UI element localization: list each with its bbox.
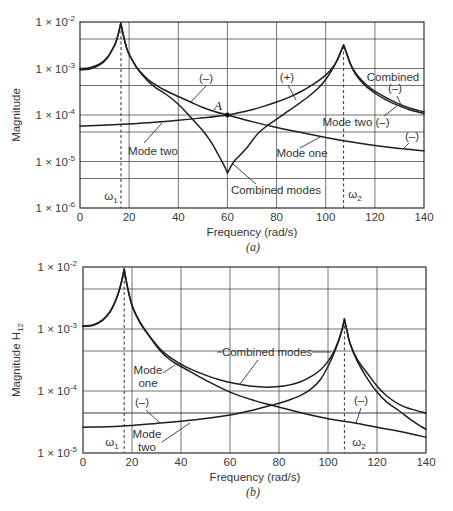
y-tick-exponent: -3 xyxy=(70,321,78,330)
leader-line xyxy=(384,106,397,116)
point-a-label: A xyxy=(213,98,222,113)
y-tick-mantissa: 1 × 10 xyxy=(36,109,68,121)
x-tick-label: 120 xyxy=(367,456,386,468)
y-tick-label: 1 × 10-5 xyxy=(38,445,78,459)
x-tick-label: 40 xyxy=(175,456,188,468)
combined-modes-label: Combined modes xyxy=(222,346,312,358)
y-tick-mantissa: 1 × 10 xyxy=(38,261,70,273)
y-tick-mantissa: 1 × 10 xyxy=(36,16,68,28)
omega-symbol: ω xyxy=(348,188,357,200)
omega1-label: ω1 xyxy=(105,436,119,451)
leader-line xyxy=(144,123,162,143)
x-tick-label: 140 xyxy=(416,456,435,468)
omega1-label: ω1 xyxy=(104,190,118,205)
y-tick-mantissa: 1 × 10 xyxy=(36,202,68,214)
leader-line xyxy=(163,365,175,373)
y-tick-exponent: -2 xyxy=(70,259,78,268)
omega-subscript: 2 xyxy=(361,442,366,451)
leader-line xyxy=(240,360,258,384)
y-axis-title: Magnitude xyxy=(10,88,22,142)
y-tick-label: 1 × 10-2 xyxy=(38,259,78,273)
omega-subscript: 1 xyxy=(113,196,118,205)
x-tick-label: 0 xyxy=(77,211,83,223)
y-tick-label: 1 × 10-4 xyxy=(38,383,78,397)
y-tick-label: 1 × 10-3 xyxy=(38,321,78,335)
x-tick-label: 80 xyxy=(270,211,283,223)
mode-one-sign-label: (–) xyxy=(199,72,213,84)
y-tick-label: 1 × 10-2 xyxy=(36,14,76,28)
x-axis-title: Frequency (rad/s) xyxy=(207,226,298,238)
x-tick-label: 140 xyxy=(414,211,433,223)
y-tick-label: 1 × 10-3 xyxy=(36,61,76,75)
mode-two-label-line1: Mode xyxy=(133,428,162,440)
y-tick-exponent: -5 xyxy=(68,154,76,163)
mode-two-label: Mode two xyxy=(128,145,178,157)
y-tick-mantissa: 1 × 10 xyxy=(38,323,70,335)
y-tick-exponent: -4 xyxy=(70,383,78,392)
point-a-marker xyxy=(225,113,230,118)
y-tick-mantissa: 1 × 10 xyxy=(36,156,68,168)
leader-line xyxy=(146,410,160,423)
leader-line xyxy=(356,408,361,423)
y-axis-title-subscript: 12 xyxy=(16,322,25,331)
curve-combined-modes xyxy=(83,269,426,413)
x-tick-label: 80 xyxy=(273,456,286,468)
x-tick-label: 100 xyxy=(318,456,337,468)
omega2-label: ω2 xyxy=(348,188,362,203)
omega-subscript: 1 xyxy=(114,442,119,451)
leader-line xyxy=(403,143,409,149)
panel-caption: (b) xyxy=(246,485,260,499)
omega-symbol: ω xyxy=(104,190,113,202)
y-tick-label: 1 × 10-5 xyxy=(36,154,76,168)
y-axis-title: Magnitude H12 xyxy=(10,322,25,397)
y-tick-label: 1 × 10-4 xyxy=(36,107,76,121)
mode-one-sign-label: (–) xyxy=(354,394,368,406)
mode-one-label-line2: one xyxy=(138,377,157,389)
panel-caption: (a) xyxy=(246,240,260,254)
leader-line xyxy=(233,164,256,184)
y-tick-exponent: -5 xyxy=(70,445,78,454)
combined-modes-label: Combined modes xyxy=(231,184,321,196)
omega-symbol: ω xyxy=(105,436,114,448)
omega-symbol: ω xyxy=(352,436,361,448)
y-tick-mantissa: 1 × 10 xyxy=(38,447,70,459)
y-tick-exponent: -4 xyxy=(68,107,76,116)
mode-one-right-sign-label: (–) xyxy=(405,130,419,142)
panel-a: 1 × 10-2 1 × 10-3 1 × 10-4 1 × 10-5 1 × … xyxy=(10,14,434,254)
omega2-label: ω2 xyxy=(352,436,366,451)
panel-b: 1 × 10-2 1 × 10-3 1 × 10-4 1 × 10-5 0 20… xyxy=(10,259,436,499)
figure: 1 × 10-2 1 × 10-3 1 × 10-4 1 × 10-5 1 × … xyxy=(0,0,453,511)
x-tick-label: 60 xyxy=(221,211,234,223)
leader-line xyxy=(162,423,190,442)
mode-two-label-line2: two xyxy=(138,441,156,453)
mode-two-right-label: Mode two (–) xyxy=(322,116,389,128)
x-tick-label: 20 xyxy=(126,456,139,468)
mode-one-label: Mode one xyxy=(276,147,327,159)
y-tick-mantissa: 1 × 10 xyxy=(38,385,70,397)
x-tick-label: 20 xyxy=(123,211,136,223)
y-axis-title-main: Magnitude H xyxy=(10,332,22,397)
leader-line xyxy=(190,86,206,103)
y-tick-label: 1 × 10-6 xyxy=(36,200,76,214)
x-tick-label: 60 xyxy=(224,456,237,468)
omega-subscript: 2 xyxy=(357,194,362,203)
mode-two-sign-label: (–) xyxy=(135,396,149,408)
x-tick-label: 120 xyxy=(365,211,384,223)
x-tick-label: 40 xyxy=(172,211,185,223)
x-axis-title: Frequency (rad/s) xyxy=(210,471,301,483)
x-tick-label: 0 xyxy=(80,456,86,468)
mode-one-label-line1: Mode xyxy=(134,364,163,376)
y-tick-exponent: -3 xyxy=(68,61,76,70)
y-tick-exponent: -2 xyxy=(68,14,76,23)
y-tick-exponent: -6 xyxy=(68,200,76,209)
combined-sign-label: (–) xyxy=(388,82,402,94)
mode-two-sign-label: (+) xyxy=(280,71,295,83)
x-tick-label: 100 xyxy=(316,211,335,223)
y-tick-mantissa: 1 × 10 xyxy=(36,63,68,75)
